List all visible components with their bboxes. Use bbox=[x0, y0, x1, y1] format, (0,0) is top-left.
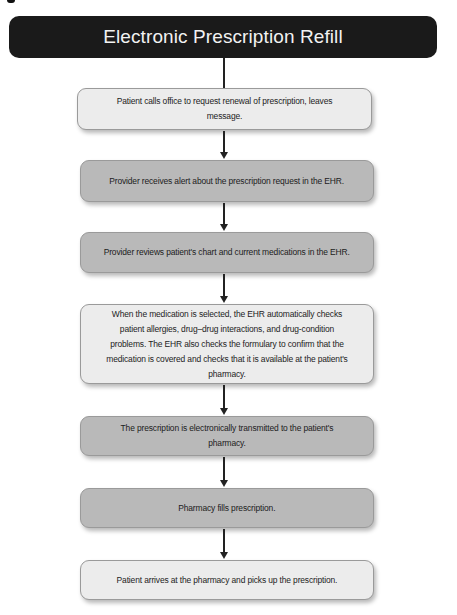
arrow-down-icon bbox=[220, 552, 228, 559]
flow-step-text: Provider receives alert about the prescr… bbox=[110, 174, 345, 189]
flow-step-5: The prescription is electronically trans… bbox=[80, 416, 374, 456]
arrow-down-icon bbox=[220, 408, 228, 415]
diagram-title: Electronic Prescription Refill bbox=[9, 16, 437, 58]
flow-step-text: Patient arrives at the pharmacy and pick… bbox=[117, 573, 338, 588]
flow-step-text: Pharmacy fills prescription. bbox=[178, 501, 275, 516]
arrow-line bbox=[223, 529, 225, 553]
flow-step-7: Patient arrives at the pharmacy and pick… bbox=[80, 560, 374, 600]
arrow-line bbox=[223, 203, 225, 225]
arrow-line bbox=[223, 274, 225, 297]
flow-step-text: The prescription is electronically trans… bbox=[102, 421, 352, 451]
flow-step-2: Provider receives alert about the prescr… bbox=[80, 160, 374, 202]
flow-step-3: Provider reviews patient's chart and cur… bbox=[80, 232, 374, 273]
decorative-mark bbox=[7, 0, 15, 3]
flow-step-text: Provider reviews patient's chart and cur… bbox=[104, 245, 350, 260]
arrow-line bbox=[223, 131, 225, 153]
diagram-title-text: Electronic Prescription Refill bbox=[103, 26, 343, 48]
arrow-down-icon bbox=[220, 296, 228, 303]
arrow-line bbox=[223, 457, 225, 481]
arrow-line bbox=[223, 385, 225, 409]
flow-step-text: When the medication is selected, the EHR… bbox=[106, 307, 349, 382]
flow-step-4: When the medication is selected, the EHR… bbox=[80, 304, 374, 384]
arrow-down-icon bbox=[220, 152, 228, 159]
arrow-down-icon bbox=[220, 224, 228, 231]
flow-step-text: Patient calls office to request renewal … bbox=[99, 94, 350, 124]
flow-step-6: Pharmacy fills prescription. bbox=[80, 488, 374, 528]
arrow-down-icon bbox=[220, 480, 228, 487]
flow-step-1: Patient calls office to request renewal … bbox=[77, 88, 372, 130]
connector-line bbox=[223, 58, 225, 88]
